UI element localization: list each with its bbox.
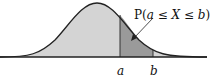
b-label: b [150,64,158,78]
probability-label: P(a ≤ X ≤ b) [134,8,210,22]
normal-distribution-diagram: P(a ≤ X ≤ b) a b [0,0,215,79]
a-label: a [117,64,124,78]
